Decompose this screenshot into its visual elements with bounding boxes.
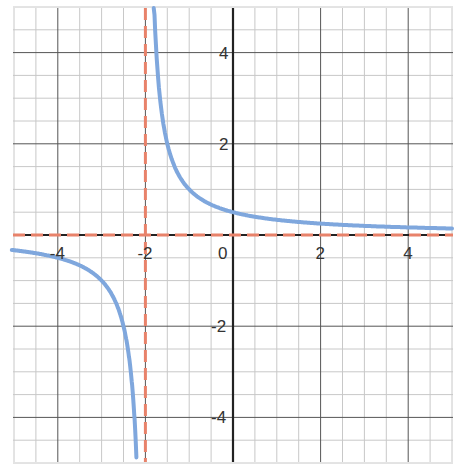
x-tick-label: -2	[137, 244, 152, 263]
x-tick-label: 2	[316, 244, 325, 263]
y-tick-label: 4	[219, 44, 228, 63]
x-tick-label: 4	[403, 244, 412, 263]
x-tick-label: -4	[50, 244, 65, 263]
curve-left-branch	[12, 250, 137, 457]
y-tick-label: -4	[211, 408, 226, 427]
x-tick-label: 0	[218, 244, 227, 263]
y-tick-label: 2	[219, 135, 228, 154]
curve-right-branch	[154, 8, 452, 229]
y-tick-label: -2	[211, 317, 226, 336]
graph-plot: -4-202442-2-4	[0, 0, 474, 476]
